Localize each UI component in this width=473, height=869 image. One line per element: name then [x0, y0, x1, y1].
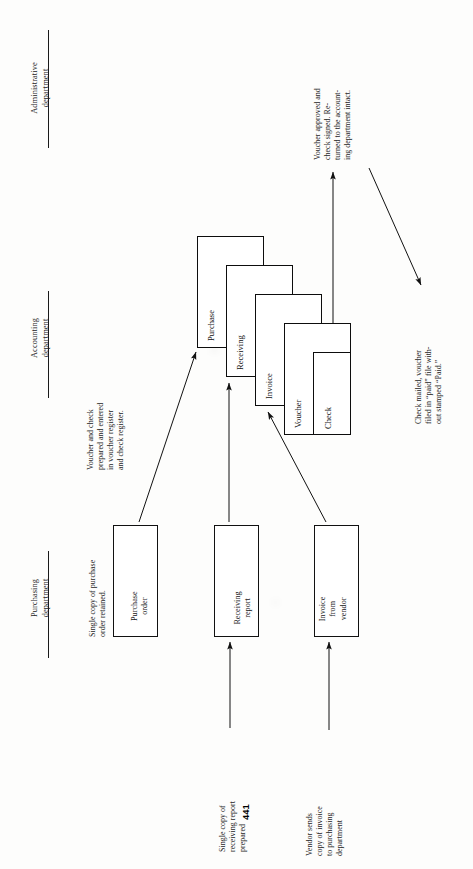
stack-doc-check-label: Check	[323, 407, 333, 429]
stack-doc-purchase-label: Purchase	[206, 310, 216, 341]
scanned-page: Administrative department Accounting dep…	[0, 0, 473, 869]
stack-doc-invoice-label: Invoice	[264, 373, 274, 399]
stack-doc-receiving-label: Receiving	[235, 335, 245, 370]
arrow-administrative-to-check-mailed	[369, 168, 421, 285]
flow-arrows	[0, 0, 473, 869]
stack-doc-check: Check	[313, 352, 351, 435]
arrow-purchase-order-to-stack	[139, 352, 196, 522]
stack-doc-voucher-label: Voucher	[293, 400, 303, 428]
